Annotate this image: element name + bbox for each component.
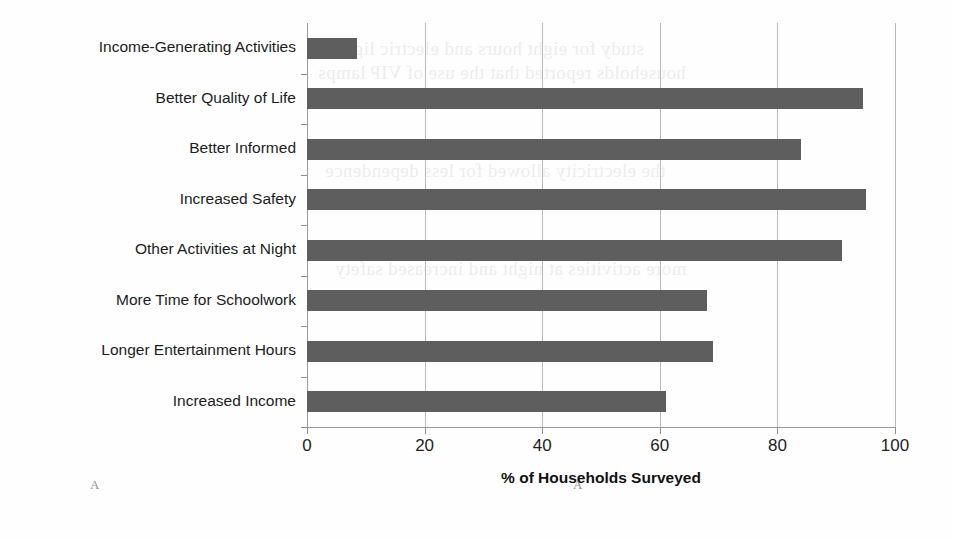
x-tick-60 [660,427,661,434]
y-tick [301,427,307,428]
scan-mark-right: A [573,477,582,493]
bar [307,341,713,362]
category-label: Better Informed [0,139,310,157]
x-tick-label-80: 80 [747,436,807,456]
bar [307,290,707,311]
x-tick-label-20: 20 [395,436,455,456]
bar [307,38,357,59]
x-tick-40 [542,427,543,434]
scan-mark-left: A [90,477,99,493]
category-label: Increased Income [0,392,310,410]
category-label: Income-Generating Activities [0,38,310,56]
x-tick-80 [777,427,778,434]
category-label: More Time for Schoolwork [0,291,310,309]
gridline-100 [895,23,896,427]
bar [307,240,842,261]
category-label: Increased Safety [0,190,310,208]
x-axis-title: % of Households Surveyed [307,469,895,487]
bar-series [307,23,895,427]
bar [307,391,666,412]
x-tick-0 [307,427,308,434]
x-tick-label-60: 60 [630,436,690,456]
category-label: Better Quality of Life [0,89,310,107]
x-tick-20 [425,427,426,434]
x-tick-100 [895,427,896,434]
bar-chart: study for eight hours and electric light… [0,0,953,539]
x-tick-label-100: 100 [865,436,925,456]
x-tick-label-40: 40 [512,436,572,456]
x-tick-label-0: 0 [277,436,337,456]
category-label: Longer Entertainment Hours [0,341,310,359]
category-label: Other Activities at Night [0,240,310,258]
bar [307,189,866,210]
bar [307,88,863,109]
bar [307,139,801,160]
x-axis-line [307,427,896,428]
